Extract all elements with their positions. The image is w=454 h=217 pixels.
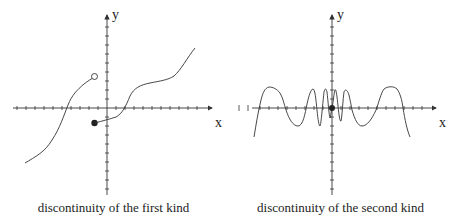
left-branch-curve [25, 78, 93, 163]
right-branch-curve [95, 48, 195, 123]
y-axis-label: y [337, 7, 344, 22]
filled-dot-marker [91, 120, 97, 126]
first-kind-plot: y x [13, 7, 222, 195]
oscillating-curve-left [254, 87, 332, 137]
second-kind-plot: y x [239, 7, 446, 195]
filled-dot-marker [329, 105, 335, 111]
diagram-canvas: y x [0, 0, 454, 217]
x-axis-label: x [215, 115, 222, 130]
open-circle-marker [92, 74, 98, 80]
caption-first-kind: discontinuity of the first kind [0, 200, 227, 216]
caption-second-kind: discontinuity of the second kind [227, 200, 454, 216]
oscillating-curve-right [332, 87, 410, 137]
x-axis-label: x [439, 115, 446, 130]
y-axis-label: y [112, 7, 119, 22]
